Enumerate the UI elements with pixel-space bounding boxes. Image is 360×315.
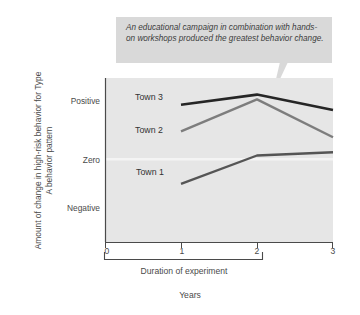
series-line-town-1 [181, 152, 333, 184]
x-tick-label-0: 0 [99, 246, 115, 256]
x-tick-label-2: 2 [249, 246, 265, 256]
x-tick-label-1: 1 [174, 246, 190, 256]
y-tick-label-zero: Zero [56, 155, 100, 165]
series-line-town-3 [181, 95, 333, 111]
x-tick-label-3: 3 [325, 246, 341, 256]
y-tick-label-negative: Negative [50, 203, 100, 213]
x-axis-title: Duration of experiment [104, 266, 264, 276]
series-label-town-2: Town 2 [135, 125, 163, 135]
y-tick-label-positive: Positive [56, 96, 100, 106]
series-label-town-3: Town 3 [135, 92, 163, 102]
chart-figure: An educational campaign in combination w… [0, 0, 360, 315]
y-axis-title: Amount of change in high-risk behavior f… [33, 71, 54, 251]
x-axis-unit-label: Years [160, 290, 220, 300]
series-label-town-1: Town 1 [136, 167, 164, 177]
